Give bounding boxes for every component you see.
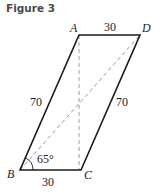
side-label-AB: 70 — [30, 95, 42, 109]
vertex-label-C: C — [84, 168, 93, 182]
angle-label-B: 65° — [37, 152, 54, 166]
parallelogram-diagram: A D B C 30 30 70 70 65° — [0, 0, 164, 196]
side-label-AD: 30 — [104, 20, 116, 34]
side-label-BC: 30 — [42, 175, 54, 189]
vertex-label-B: B — [7, 167, 15, 181]
side-label-CD: 70 — [116, 95, 128, 109]
vertex-label-D: D — [141, 21, 151, 35]
vertex-label-A: A — [69, 21, 78, 35]
angle-arc-B — [26, 158, 34, 170]
